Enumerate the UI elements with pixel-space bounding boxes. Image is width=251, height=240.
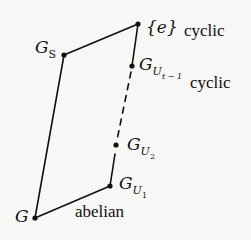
label-GUt1-main: G <box>139 54 153 74</box>
label-G-text: G <box>15 206 29 226</box>
label-GUt1-subsub: t − 1 <box>162 72 182 81</box>
edge-G-GS <box>35 55 64 218</box>
label-G: G <box>15 208 29 225</box>
label-GU1-main: G <box>119 173 133 193</box>
node-GU1 <box>107 183 112 188</box>
label-GU2-sub: U <box>141 145 150 158</box>
label-GU1-subsub: 1 <box>142 191 147 200</box>
annotation-e-cyclic: cyclic <box>184 22 225 39</box>
label-GU1-sub: U <box>133 184 142 197</box>
edge-GUt1-GU2-dashed <box>117 72 131 140</box>
label-GU1: GU1 <box>119 175 147 192</box>
label-e-text: {e} <box>146 17 178 37</box>
node-e <box>135 21 140 26</box>
edge-GS-e <box>64 24 138 55</box>
subgroup-lattice-diagram: G GS {e} cyclic GUt − 1 cyclic GU2 GU1 a… <box>0 0 251 240</box>
label-GU2-main: G <box>127 134 141 154</box>
label-GUt1-sub: U <box>153 65 162 78</box>
annotation-GUt1-cyclic: cyclic <box>190 74 231 91</box>
node-GS <box>61 52 66 57</box>
label-GS: GS <box>35 39 56 56</box>
label-GUt1: GUt − 1 <box>139 56 182 73</box>
label-GS-main: G <box>35 37 49 57</box>
node-G <box>32 215 37 220</box>
label-GU2-subsub: 2 <box>150 152 155 161</box>
label-GS-sub: S <box>49 48 57 61</box>
edge-e-GUt1 <box>132 24 138 66</box>
node-GUt1 <box>129 63 134 68</box>
annotation-G-abelian: abelian <box>75 203 124 220</box>
label-GU2: GU2 <box>127 136 155 153</box>
label-e: {e} <box>146 19 178 36</box>
node-GU2 <box>113 142 118 147</box>
edge-GU2-GU1 <box>110 154 115 186</box>
